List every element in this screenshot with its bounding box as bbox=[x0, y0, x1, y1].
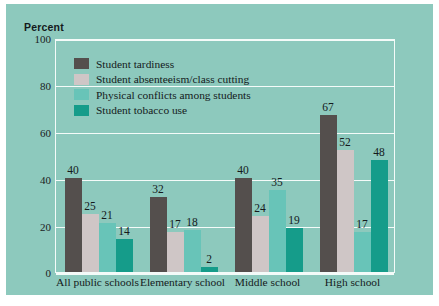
y-axis-tick-label: 20 bbox=[40, 221, 51, 233]
bar: 52 bbox=[337, 150, 354, 272]
y-axis-tick-label: 40 bbox=[40, 174, 51, 186]
bar-group: 67521748 bbox=[320, 40, 388, 272]
plot-area: 020406080100 Student tardinessStudent ab… bbox=[55, 39, 395, 273]
bar: 17 bbox=[354, 232, 371, 272]
bar: 48 bbox=[371, 160, 388, 272]
bar-group: 3217182 bbox=[150, 40, 218, 272]
bar: 24 bbox=[252, 216, 269, 272]
x-axis-label: Middle school bbox=[235, 276, 301, 288]
y-axis-title: Percent bbox=[24, 21, 64, 33]
bar-value-label: 18 bbox=[186, 216, 198, 228]
bar: 19 bbox=[286, 228, 303, 272]
bar: 21 bbox=[99, 223, 116, 272]
bar-value-label: 67 bbox=[322, 101, 334, 113]
bar-value-label: 17 bbox=[169, 218, 181, 230]
bar: 25 bbox=[82, 214, 99, 273]
bar: 17 bbox=[167, 232, 184, 272]
bar-value-label: 40 bbox=[237, 164, 249, 176]
bar-value-label: 24 bbox=[254, 202, 266, 214]
bar-value-label: 21 bbox=[101, 209, 113, 221]
bar-value-label: 14 bbox=[118, 225, 130, 237]
x-axis-label: All public schools bbox=[56, 276, 139, 288]
gridline: 0 bbox=[56, 273, 394, 274]
bar-value-label: 48 bbox=[373, 146, 385, 158]
bar: 40 bbox=[235, 178, 252, 272]
bar-groups: 4025211432171824024351967521748 bbox=[56, 40, 394, 272]
bar-value-label: 35 bbox=[271, 176, 283, 188]
bar: 35 bbox=[269, 190, 286, 272]
y-axis-tick-label: 0 bbox=[46, 267, 52, 279]
chart-figure: Percent 020406080100 Student tardinessSt… bbox=[6, 4, 433, 295]
bar: 14 bbox=[116, 239, 133, 272]
bar-value-label: 19 bbox=[288, 214, 300, 226]
bar-group: 40243519 bbox=[235, 40, 303, 272]
bar: 18 bbox=[184, 230, 201, 272]
bar: 40 bbox=[65, 178, 82, 272]
bar-value-label: 17 bbox=[356, 218, 368, 230]
y-axis-tick-label: 100 bbox=[35, 33, 52, 45]
bar-value-label: 32 bbox=[152, 183, 164, 195]
bar-group: 40252114 bbox=[65, 40, 133, 272]
bar-value-label: 40 bbox=[67, 164, 79, 176]
bar-value-label: 2 bbox=[206, 253, 212, 265]
bar: 67 bbox=[320, 115, 337, 272]
bar: 32 bbox=[150, 197, 167, 272]
y-axis-tick-label: 80 bbox=[40, 80, 51, 92]
x-axis-label: High school bbox=[325, 276, 380, 288]
bar: 2 bbox=[201, 267, 218, 272]
bar-value-label: 25 bbox=[84, 200, 96, 212]
y-axis-tick-label: 60 bbox=[40, 127, 51, 139]
x-axis-label: Elementary school bbox=[140, 276, 225, 288]
bar-value-label: 52 bbox=[339, 136, 351, 148]
